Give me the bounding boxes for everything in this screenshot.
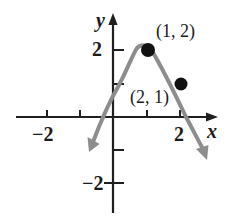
curve-right-arrowhead: [196, 145, 209, 160]
data-point-1-2: [141, 43, 155, 57]
x-tick-label-neg-two: −2: [32, 124, 53, 144]
coordinate-plane-figure: y x −2 2 2 −2 (1, 2) (2, 1): [0, 0, 235, 217]
data-point-2-1: [175, 78, 188, 91]
x-tick-label-pos-two: 2: [174, 124, 184, 144]
parabola-plot-svg: [0, 0, 235, 217]
point-label-1-2: (1, 2): [156, 22, 195, 40]
x-axis-label: x: [207, 121, 217, 141]
y-tick-label-pos-two: 2: [92, 39, 102, 59]
y-axis-label: y: [96, 10, 105, 30]
point-label-2-1: (2, 1): [130, 88, 169, 106]
y-axis-arrowhead: [108, 13, 117, 25]
y-tick-label-neg-two: −2: [82, 173, 103, 193]
